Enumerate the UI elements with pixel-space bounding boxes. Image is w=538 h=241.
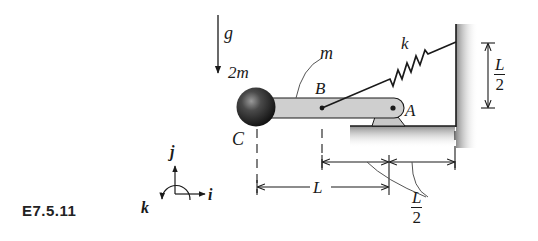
fraction-numerator: L [494, 56, 505, 75]
mechanism-diagram [0, 0, 538, 241]
axis-j-label: j [170, 144, 174, 160]
pin-a-dot [390, 105, 395, 110]
axis-i-label: i [208, 187, 212, 203]
spring-height-label: L 2 [494, 56, 505, 93]
fraction-numerator: L [411, 189, 422, 208]
point-a-label: A [405, 102, 415, 119]
point-c-label: C [232, 130, 244, 148]
length-dimension [257, 180, 388, 195]
spring-constant-label: k [401, 35, 409, 52]
length-label: L [313, 179, 322, 196]
ball-mass-label: 2m [228, 64, 249, 81]
spring-height-dimension [481, 43, 495, 108]
ball-mass [237, 88, 276, 127]
bar-link [256, 98, 404, 118]
half-length-dimensions [322, 155, 455, 195]
gravity-label: g [224, 24, 233, 42]
figure-caption: E7.5.11 [22, 202, 76, 219]
wall [456, 24, 478, 148]
coordinate-axes-icon [162, 166, 205, 200]
half-length-label: L 2 [411, 189, 422, 226]
point-b-label: B [315, 80, 325, 97]
axis-k-label: k [141, 200, 149, 216]
fraction-denominator: 2 [494, 75, 505, 93]
ground-support [350, 126, 456, 148]
bar-mass-label: m [320, 44, 333, 62]
fraction-denominator: 2 [411, 208, 422, 226]
